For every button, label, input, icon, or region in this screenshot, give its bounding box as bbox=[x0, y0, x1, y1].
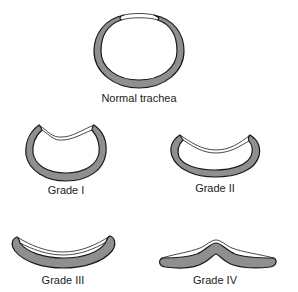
grade-1-shape bbox=[26, 125, 106, 181]
grade-2-shape bbox=[171, 135, 260, 177]
normal-trachea-shape bbox=[94, 14, 184, 89]
normal-trachea-label: Normal trachea bbox=[101, 92, 176, 104]
grade-3-shape bbox=[12, 236, 115, 268]
tracheal-collapse-diagram bbox=[0, 0, 298, 292]
grade-4-label: Grade IV bbox=[193, 274, 237, 286]
grade-3-label: Grade III bbox=[42, 274, 85, 286]
grade-1-label: Grade I bbox=[48, 184, 85, 196]
grade-2-label: Grade II bbox=[195, 182, 235, 194]
grade-4-shape bbox=[160, 240, 276, 268]
